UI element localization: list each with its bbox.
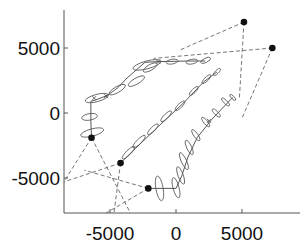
track-track-3 (148, 94, 236, 202)
bearing-line (239, 22, 244, 99)
x-tick-label: 0 (171, 223, 182, 244)
uncertainty-ellipse (131, 134, 146, 149)
uncertainty-ellipse (84, 91, 109, 104)
y-tick-label: 0 (49, 103, 60, 124)
y-tick-label: 5000 (18, 38, 60, 59)
x-ticks: -500005000 (86, 209, 263, 244)
sensor-dot (117, 160, 124, 167)
bearing-line (154, 48, 273, 58)
track-line (148, 97, 232, 188)
uncertainty-ellipse (81, 112, 98, 121)
uncertainty-ellipse (146, 123, 159, 136)
uncertainty-ellipse (108, 82, 127, 96)
sensor-dot (145, 185, 152, 192)
uncertainty-ellipse (132, 57, 162, 72)
uncertainty-ellipse (211, 108, 221, 118)
uncertainty-ellipse (184, 139, 195, 155)
track-track-1 (80, 56, 212, 139)
track-line (91, 61, 205, 138)
uncertainty-ellipse (212, 68, 221, 77)
cross-marker-icon (92, 96, 96, 100)
y-tick-label: -5000 (11, 168, 60, 189)
bearing-line (242, 48, 272, 118)
x-tick-label: 5000 (221, 223, 263, 244)
bearing-line (106, 188, 148, 213)
plot-figure: -500005000 50000-5000 (0, 0, 302, 247)
uncertainty-ellipse (121, 145, 136, 160)
uncertainty-ellipse (200, 56, 211, 64)
sensor-dot (241, 19, 248, 26)
bearing-line (179, 22, 244, 51)
bearing-line (64, 138, 92, 182)
x-tick-label: -5000 (86, 223, 135, 244)
y-ticks: 50000-5000 (11, 38, 68, 189)
bearing-line (64, 163, 121, 182)
sensor-dot (88, 134, 95, 141)
track-track-2 (119, 68, 222, 165)
uncertainty-ellipse (159, 110, 172, 123)
axes: -500005000 50000-5000 (11, 10, 300, 244)
uncertainty-ellipse (186, 58, 199, 65)
tracks (80, 56, 237, 201)
uncertainty-ellipse (188, 85, 199, 96)
sensor-dot (269, 45, 276, 52)
